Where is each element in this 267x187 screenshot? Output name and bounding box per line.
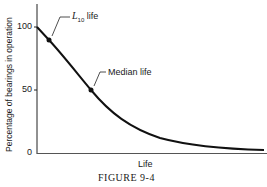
l10-point bbox=[47, 38, 52, 43]
l10-suffix: life bbox=[84, 11, 98, 21]
median-life-annotation: Median life bbox=[108, 67, 152, 77]
survival-curve bbox=[37, 27, 264, 150]
l10-leader-line bbox=[52, 17, 70, 36]
y-tick-label-100: 100 bbox=[10, 21, 32, 31]
x-axis-label: Life bbox=[138, 159, 153, 169]
l10-life-annotation: L10 life bbox=[72, 10, 98, 23]
y-tick-label-0: 0 bbox=[10, 147, 32, 157]
chart-canvas bbox=[0, 0, 267, 187]
figure-caption: FIGURE 9-4 bbox=[98, 172, 155, 183]
median-leader-line bbox=[94, 72, 106, 86]
median-point bbox=[89, 88, 94, 93]
y-tick-label-50: 50 bbox=[10, 84, 32, 94]
